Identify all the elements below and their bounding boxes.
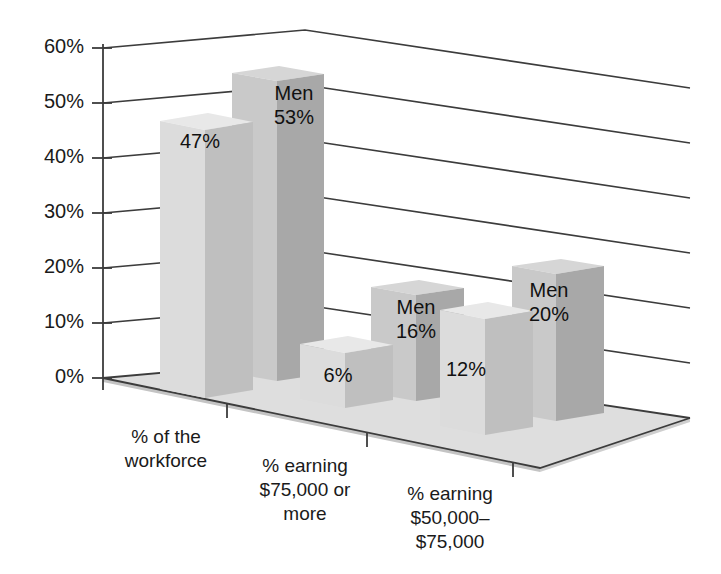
bar-label-back-20-name: Men bbox=[530, 279, 569, 301]
y-tick-label-0: 0% bbox=[55, 365, 84, 387]
bar-front-3-side bbox=[485, 311, 533, 435]
category-label-1-line1: % of the bbox=[131, 426, 201, 447]
category-label-3-line3: $75,000 bbox=[416, 531, 485, 552]
y-tick-label-10: 10% bbox=[44, 310, 84, 332]
category-label-3-line2: $50,000– bbox=[410, 507, 490, 528]
bar-label-front-12: 12% bbox=[446, 358, 486, 380]
category-label-1-line2: workforce bbox=[124, 450, 207, 471]
bar-label-back-53-name: Men bbox=[275, 82, 314, 104]
category-label-2-line2: $75,000 or bbox=[260, 479, 352, 500]
category-label-2-line3: more bbox=[283, 503, 326, 524]
category-label-3-line1: % earning bbox=[407, 483, 493, 504]
y-tick-label-50: 50% bbox=[44, 90, 84, 112]
y-tick-label-60: 60% bbox=[44, 35, 84, 57]
bar-label-front-6: 6% bbox=[324, 364, 353, 386]
y-tick-label-40: 40% bbox=[44, 145, 84, 167]
bar-label-back-16-name: Men bbox=[397, 296, 436, 318]
bar-label-back-16-value: 16% bbox=[396, 320, 436, 342]
bar-front-47[interactable] bbox=[160, 113, 253, 398]
bar-label-back-53-value: 53% bbox=[274, 106, 314, 128]
bar-chart-3d: 60% 50% 40% 30% 20% 10% 0% bbox=[0, 0, 721, 574]
bar-front-1-front bbox=[160, 121, 205, 398]
y-tick-label-30: 30% bbox=[44, 200, 84, 222]
bar-label-front-47: 47% bbox=[180, 130, 220, 152]
category-label-2-line1: % earning bbox=[262, 455, 348, 476]
chart-background bbox=[0, 0, 721, 574]
bar-label-back-20-value: 20% bbox=[529, 303, 569, 325]
y-tick-label-20: 20% bbox=[44, 255, 84, 277]
bar-front-1-side bbox=[205, 122, 253, 398]
chart-container: 60% 50% 40% 30% 20% 10% 0% bbox=[0, 0, 721, 574]
